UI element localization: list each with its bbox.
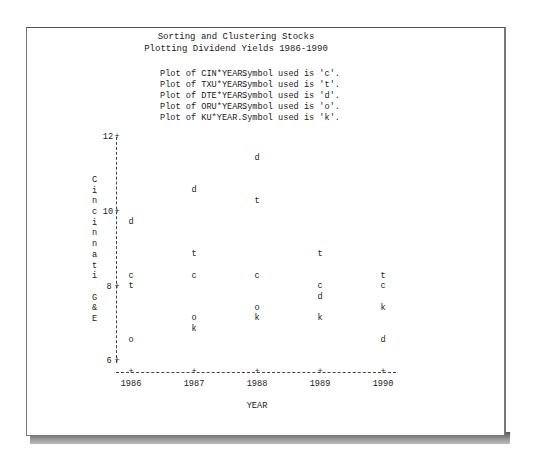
y-tick-10: 10 bbox=[103, 208, 113, 217]
y-tick-12: 12 bbox=[103, 133, 113, 142]
data-point-ku: k bbox=[191, 325, 196, 334]
legend-plot-txu: Plot of TXU*YEAR. bbox=[160, 80, 248, 90]
x-tick-1989: 1989 bbox=[310, 380, 331, 389]
y-tick-mark: + bbox=[114, 208, 119, 217]
data-point-dte: d bbox=[317, 293, 322, 302]
data-point-cin: c bbox=[128, 271, 133, 280]
y-tick-6: 6 bbox=[106, 357, 111, 366]
data-point-oru: o bbox=[191, 314, 196, 323]
data-point-dte: d bbox=[254, 154, 259, 163]
data-point-ku: k bbox=[317, 314, 322, 323]
data-point-dte: d bbox=[128, 218, 133, 227]
legend-plot-oru: Plot of ORU*YEAR. bbox=[160, 102, 248, 112]
legend-symbol-oru: Symbol used is 'o'. bbox=[242, 102, 340, 112]
x-tick-1986: 1986 bbox=[121, 380, 142, 389]
data-point-txu: t bbox=[254, 197, 259, 206]
chart-subtitle: Plotting Dividend Yields 1986-1990 bbox=[144, 44, 328, 54]
data-point-oru: o bbox=[254, 303, 259, 312]
data-point-dte: d bbox=[380, 335, 385, 344]
x-tick-mark: + bbox=[317, 368, 322, 377]
x-tick-1988: 1988 bbox=[247, 380, 268, 389]
chart-title: Sorting and Clustering Stocks bbox=[158, 32, 315, 42]
data-point-cin: c bbox=[191, 271, 196, 280]
data-point-cin: c bbox=[317, 282, 322, 291]
data-point-txu: t bbox=[380, 271, 385, 280]
data-point-ku: k bbox=[254, 314, 259, 323]
y-tick-8: 8 bbox=[106, 283, 111, 292]
x-tick-mark: + bbox=[380, 368, 385, 377]
legend-plot-cin: Plot of CIN*YEAR. bbox=[160, 69, 248, 79]
x-tick-mark: + bbox=[128, 368, 133, 377]
legend-symbol-ku: Symbol used is 'k'. bbox=[242, 113, 340, 123]
data-point-cin: c bbox=[254, 271, 259, 280]
data-point-cin: c bbox=[380, 282, 385, 291]
x-axis-label: YEAR bbox=[247, 402, 268, 411]
data-point-txu: t bbox=[128, 282, 133, 291]
data-point-ku: k bbox=[380, 303, 385, 312]
legend-symbol-cin: Symbol used is 'c'. bbox=[242, 69, 340, 79]
x-tick-mark: + bbox=[254, 368, 259, 377]
y-tick-mark: + bbox=[114, 357, 119, 366]
legend-plot-dte: Plot of DTE*YEAR. bbox=[160, 91, 248, 101]
data-point-txu: t bbox=[191, 250, 196, 259]
legend-plot-ku: Plot of KU*YEAR. bbox=[160, 113, 243, 123]
data-point-dte: d bbox=[191, 186, 196, 195]
x-tick-1987: 1987 bbox=[184, 380, 205, 389]
y-tick-mark: + bbox=[114, 133, 119, 142]
y-axis-line bbox=[116, 137, 117, 363]
legend-symbol-dte: Symbol used is 'd'. bbox=[242, 91, 340, 101]
data-point-txu: t bbox=[317, 250, 322, 259]
x-tick-mark: + bbox=[191, 368, 196, 377]
legend-symbol-txu: Symbol used is 't'. bbox=[242, 80, 340, 90]
x-tick-1990: 1990 bbox=[373, 380, 394, 389]
y-tick-mark: + bbox=[114, 283, 119, 292]
data-point-oru: o bbox=[128, 335, 133, 344]
